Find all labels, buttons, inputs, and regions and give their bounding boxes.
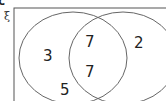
venn-diagram: 3 5 7 7 2 — [0, 0, 166, 101]
region-intersection-bottom: 7 — [85, 63, 95, 81]
region-a-only-top: 3 — [43, 47, 53, 65]
region-a-only-bottom: 5 — [60, 81, 70, 99]
set-b-circle — [69, 12, 166, 101]
region-b-only: 2 — [134, 34, 144, 52]
region-intersection-top: 7 — [85, 33, 95, 51]
set-a-circle — [19, 12, 127, 101]
